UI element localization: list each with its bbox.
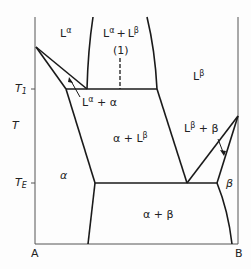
region-alpha-plus-beta: α + β: [143, 208, 173, 221]
region-alpha-plus-L-beta: α + Lβ: [113, 131, 148, 145]
TE-label: TE: [15, 176, 28, 190]
arrow-L-beta-plus-beta: [218, 139, 223, 152]
y-axis-label: T: [12, 119, 20, 132]
L-alpha-boundary: [87, 17, 93, 89]
region-L-beta: Lβ: [193, 69, 204, 83]
region-beta: β: [225, 177, 233, 190]
beta-solidus: [217, 116, 238, 183]
alpha-solvus: [88, 183, 95, 244]
region-L-alpha: Lα: [60, 26, 71, 40]
region-alpha: α: [60, 169, 68, 182]
composition-marker-1: (1): [113, 44, 129, 57]
L-beta-liquidus-lower: [157, 89, 187, 183]
beta-solvus: [217, 183, 232, 244]
region-L-alpha-L-beta: Lα+Lβ: [103, 26, 139, 40]
region-L-alpha-plus-alpha: Lα + α: [82, 95, 117, 109]
region-L-beta-plus-beta: Lβ + β: [184, 121, 218, 135]
composition-A: A: [31, 247, 39, 260]
L-beta-boundary: [147, 17, 157, 89]
arrowhead-L-alpha-plus-alpha-icon: [68, 77, 73, 83]
phase-diagram: T A B T1 TE Lα Lα+Lβ (1) Lβ Lα + α α + L…: [0, 0, 251, 269]
composition-B-label: B: [235, 247, 243, 260]
T1-label: T1: [15, 82, 27, 96]
